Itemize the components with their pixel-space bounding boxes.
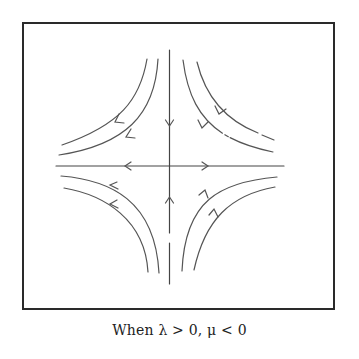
figure-caption: When λ > 0, μ < 0: [0, 322, 359, 338]
trajectory-bottom-right-inner: [182, 177, 277, 271]
phase-portrait: [0, 0, 359, 359]
arrow-bottom-right-inner-icon: [199, 190, 208, 198]
arrow-bottom-right-outer-icon: [209, 209, 218, 217]
trajectory-bottom-right-outer: [194, 187, 275, 270]
trajectory-top-right-outer-tail: [262, 135, 274, 140]
trajectory-top-left-outer: [62, 59, 147, 145]
trajectory-top-right-outer: [197, 62, 258, 133]
arrow-top-right-inner-icon: [198, 120, 208, 128]
trajectory-bottom-left-outer: [64, 188, 148, 272]
trajectory-top-right-inner: [183, 60, 273, 152]
arrow-top-left-inner-icon: [126, 129, 135, 138]
arrow-top-left-outer-icon: [115, 114, 124, 123]
